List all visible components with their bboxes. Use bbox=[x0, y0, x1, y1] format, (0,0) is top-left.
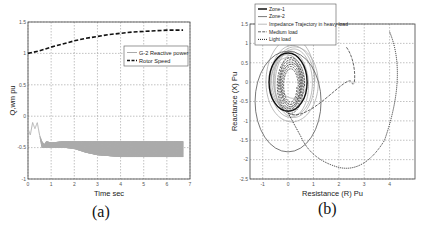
chart-b-plot: -101234-2.5-2-1.5-1-0.500.511.5Resistanc… bbox=[212, 0, 425, 200]
x-tick-label: 0 bbox=[287, 181, 290, 187]
y-tick-label: -1.5 bbox=[239, 137, 248, 143]
y-tick-label: -1 bbox=[244, 118, 249, 124]
y-tick-label: 1.5 bbox=[241, 21, 248, 27]
y-axis-label: Q,wm pu bbox=[8, 85, 17, 115]
y-tick-label: -2 bbox=[244, 156, 249, 162]
legend-item-heavy-load: Impedance Trajectory in heavy load bbox=[269, 21, 348, 27]
y-tick-label: 1 bbox=[23, 50, 26, 56]
y-tick-label: 1 bbox=[245, 40, 248, 46]
x-axis-label: Resistance (R) Pu bbox=[302, 189, 363, 198]
y-axis-label: Reactance (X) Pu bbox=[230, 72, 239, 131]
x-tick-label: 2 bbox=[337, 181, 340, 187]
legend-item-reactive-power: G-2 Reactive power bbox=[139, 50, 189, 56]
y-tick-label: -1 bbox=[22, 176, 27, 182]
legend-item-rotor-speed: Rotor Speed bbox=[139, 58, 170, 64]
x-axis-label: Time sec bbox=[94, 189, 124, 198]
y-tick-label: 0.5 bbox=[241, 60, 248, 66]
y-tick-label: 0 bbox=[23, 113, 26, 119]
x-tick-label: 3 bbox=[363, 181, 366, 187]
x-tick-label: 6 bbox=[165, 181, 168, 187]
y-tick-label: 0.5 bbox=[19, 82, 26, 88]
legend: G-2 Reactive powerRotor Speed bbox=[124, 46, 189, 66]
y-tick-label: 0 bbox=[245, 79, 248, 85]
legend-item-light-load: Light load bbox=[269, 36, 291, 42]
x-tick-label: 0 bbox=[27, 181, 30, 187]
legend: Zone-1Zone-2Impedance Trajectory in heav… bbox=[255, 4, 348, 45]
y-tick-label: -2.5 bbox=[239, 176, 248, 182]
caption-a: (a) bbox=[92, 203, 110, 221]
legend-item-zone-2: Zone-2 bbox=[269, 13, 285, 19]
legend-item-medium-load: Medium load bbox=[269, 29, 298, 35]
y-tick-label: 1.5 bbox=[19, 19, 26, 25]
legend-item-zone-1: Zone-1 bbox=[269, 6, 285, 12]
caption-b: (b) bbox=[318, 200, 337, 218]
chart-a: 01234567-1-0.500.511.5Time secQ,wm puG-2… bbox=[0, 0, 212, 200]
y-tick-label: -0.5 bbox=[239, 98, 248, 104]
x-tick-label: 1 bbox=[312, 181, 315, 187]
x-tick-label: -1 bbox=[260, 181, 265, 187]
x-tick-label: 7 bbox=[189, 181, 192, 187]
chart-a-plot: 01234567-1-0.500.511.5Time secQ,wm puG-2… bbox=[0, 0, 212, 200]
x-tick-label: 1 bbox=[50, 181, 53, 187]
x-tick-label: 5 bbox=[142, 181, 145, 187]
x-tick-label: 2 bbox=[73, 181, 76, 187]
x-tick-label: 4 bbox=[388, 181, 391, 187]
x-tick-label: 4 bbox=[119, 181, 122, 187]
y-tick-label: -0.5 bbox=[17, 144, 26, 150]
chart-b: -101234-2.5-2-1.5-1-0.500.511.5Resistanc… bbox=[212, 0, 425, 200]
x-tick-label: 3 bbox=[96, 181, 99, 187]
